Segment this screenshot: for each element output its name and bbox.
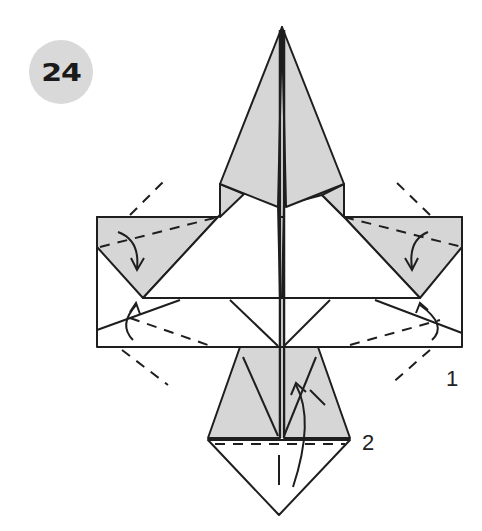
origami-diagram bbox=[0, 0, 482, 531]
label-two: 2 bbox=[362, 430, 374, 456]
nose-left bbox=[220, 27, 282, 207]
label-one: 1 bbox=[446, 366, 458, 392]
nose-right bbox=[282, 27, 344, 207]
tail-right bbox=[284, 347, 350, 438]
